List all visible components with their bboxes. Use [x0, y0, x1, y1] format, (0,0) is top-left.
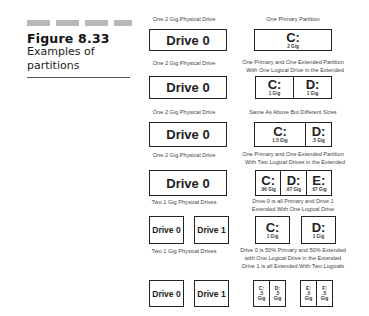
partition-d: D: 1 Gig — [302, 217, 335, 243]
row1-right-label: One Primary Partition — [246, 15, 340, 24]
partition-c: C: 1 Gig — [256, 77, 294, 98]
partition-letter: C: — [268, 78, 282, 91]
partition-unit: Gig — [321, 296, 329, 301]
partition-layout: C: 2 Gig — [254, 29, 332, 51]
partition-layout: C: .66 Gig D: .67 Gig E: .67 Gig — [255, 170, 332, 196]
physical-drive-0: Drive 0 — [149, 122, 227, 147]
partition-letter: C: — [286, 31, 300, 44]
partition-d: D: .5 Gig — [306, 123, 331, 146]
figure-caption: Examples of partitions — [27, 45, 137, 73]
row3-left-label: One 2 Gig Physical Drive — [138, 108, 230, 117]
partition-layout-drive0: C: .5 Gig D: .5 Gig — [253, 280, 286, 307]
partition-d: D: 1 Gig — [294, 77, 331, 98]
partition-layout-drive0: C: 1 Gig — [255, 216, 290, 244]
partition-size: 1 Gig — [313, 234, 325, 240]
physical-drive-1: Drive 1 — [194, 280, 229, 307]
partition-unit: Gig — [305, 296, 313, 301]
partition-e: E: .5 Gig — [301, 281, 317, 306]
partition-c: C: 1.5 Gig — [255, 123, 306, 146]
caption-divider — [27, 77, 130, 78]
partition-c: C: .66 Gig — [256, 171, 281, 195]
header-bar-segment — [27, 20, 50, 26]
partition-letter: E: — [312, 174, 325, 187]
partition-letter: D: — [306, 78, 320, 91]
partition-e: E: .67 Gig — [307, 171, 331, 195]
partition-size: 1.5 Gig — [272, 138, 287, 144]
partition-letter: D: — [312, 221, 326, 234]
partition-f: F: .5 Gig — [317, 281, 332, 306]
row6-left-label: Two 1 Gig Physical Drives — [138, 247, 230, 256]
header-bar-segment — [56, 20, 79, 26]
partition-size: 2 Gig — [287, 44, 299, 50]
row1-left-label: One 2 Gig Physical Drive — [138, 15, 230, 24]
partition-size: .67 Gig — [286, 187, 301, 193]
partition-layout: C: 1 Gig D: 1 Gig — [255, 76, 332, 99]
partition-c: C: 1 Gig — [256, 217, 289, 243]
row5-right-label-line2: Extended With One Logical Drive — [244, 205, 342, 214]
partition-unit: Gig — [258, 296, 266, 301]
physical-drive-0: Drive 0 — [149, 29, 227, 51]
partition-layout-drive1: D: 1 Gig — [301, 216, 336, 244]
partition-size: 1 Gig — [269, 91, 281, 97]
partition-size: 1 Gig — [267, 234, 279, 240]
partition-size: .5 Gig — [312, 138, 325, 144]
partition-letter: C: — [273, 125, 287, 138]
partition-c: C: .5 Gig — [254, 281, 270, 306]
partition-c: C: 2 Gig — [255, 30, 331, 50]
physical-drive-0: Drive 0 — [149, 76, 227, 99]
partition-size: 1 Gig — [307, 91, 319, 97]
partition-letter: C: — [261, 174, 275, 187]
partition-letter: D: — [312, 125, 326, 138]
physical-drive-0: Drive 0 — [149, 170, 227, 196]
row2-right-label-line2: With One Logical Drive in the Extended — [240, 66, 350, 75]
header-bar-segment — [85, 20, 108, 26]
physical-drive-1: Drive 1 — [194, 216, 229, 244]
partition-size: .66 Gig — [261, 187, 276, 193]
row4-left-label: One 2 Gig Physical Drive — [138, 151, 230, 160]
row6-right-label-line3: Drive 1 is all Extended With Two Logical… — [236, 262, 350, 271]
row5-left-label: Two 1 Gig Physical Drives — [138, 198, 230, 207]
physical-drive-0: Drive 0 — [149, 280, 184, 307]
row3-right-label: Same As Above But Different Sizes — [244, 108, 342, 117]
partition-d: D: .67 Gig — [281, 171, 306, 195]
partition-unit: Gig — [274, 296, 282, 301]
partition-size: .67 Gig — [311, 187, 326, 193]
row2-left-label: One 2 Gig Physical Drive — [138, 59, 230, 68]
figure-number: Figure 8.33 — [27, 31, 110, 46]
partition-layout-drive1: E: .5 Gig F: .5 Gig — [300, 280, 333, 307]
physical-drive-0: Drive 0 — [149, 216, 184, 244]
row4-right-label-line2: With Two Logical Drives in the Extended — [240, 158, 350, 167]
partition-layout: C: 1.5 Gig D: .5 Gig — [254, 122, 332, 147]
partition-letter: D: — [287, 174, 301, 187]
partition-d: D: .5 Gig — [270, 281, 285, 306]
partition-letter: C: — [266, 221, 280, 234]
header-bar-segment — [114, 20, 132, 26]
